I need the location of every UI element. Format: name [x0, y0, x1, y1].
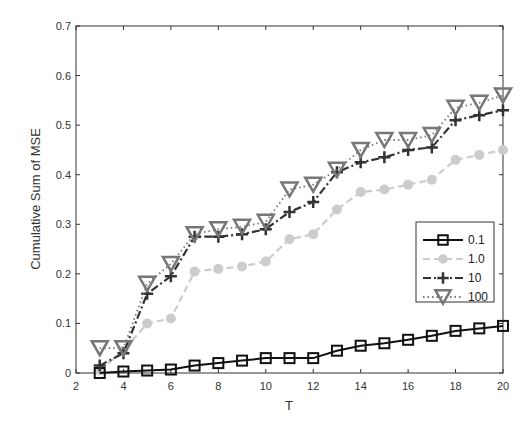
y-tick-label: 0.1: [56, 317, 71, 329]
circle-marker: [474, 150, 484, 160]
x-tick-label: 2: [73, 380, 79, 392]
circle-marker: [451, 155, 461, 165]
circle-marker: [285, 234, 295, 244]
circle-marker: [190, 266, 200, 276]
circle-marker: [498, 145, 508, 155]
circle-marker: [261, 256, 271, 266]
x-axis-label: T: [285, 398, 293, 413]
y-tick-label: 0.4: [56, 169, 71, 181]
circle-marker: [403, 180, 413, 190]
x-tick-label: 16: [402, 380, 414, 392]
legend-label: 0.1: [468, 233, 485, 247]
x-tick-label: 6: [168, 380, 174, 392]
circle-marker: [332, 204, 342, 214]
x-tick-label: 8: [215, 380, 221, 392]
x-tick-label: 4: [120, 380, 126, 392]
y-tick-label: 0.6: [56, 70, 71, 82]
circle-marker: [379, 185, 389, 195]
legend-label: 10: [468, 271, 482, 285]
y-tick-label: 0.2: [56, 268, 71, 280]
circle-marker: [438, 254, 448, 264]
legend-label: 100: [468, 290, 488, 304]
line-chart: 00.10.20.30.40.50.60.7 2468101214161820 …: [0, 0, 532, 432]
x-tick-label: 12: [307, 380, 319, 392]
circle-marker: [427, 175, 437, 185]
circle-marker: [213, 264, 223, 274]
x-tick-label: 14: [355, 380, 367, 392]
y-tick-label: 0.3: [56, 218, 71, 230]
x-tick-label: 10: [260, 380, 272, 392]
circle-marker: [166, 313, 176, 323]
legend: 0.11.010100: [416, 222, 494, 304]
y-axis-label: Cumulative Sum of MSE: [28, 128, 43, 270]
x-tick-label: 18: [449, 380, 461, 392]
legend-label: 1.0: [468, 252, 485, 266]
circle-marker: [356, 187, 366, 197]
y-tick-label: 0.7: [56, 20, 71, 32]
x-tick-label: 20: [497, 380, 509, 392]
circle-marker: [308, 229, 318, 239]
plot-area: [76, 26, 503, 373]
circle-marker: [142, 318, 152, 328]
y-tick-label: 0.5: [56, 119, 71, 131]
circle-marker: [237, 261, 247, 271]
y-tick-label: 0: [65, 367, 71, 379]
